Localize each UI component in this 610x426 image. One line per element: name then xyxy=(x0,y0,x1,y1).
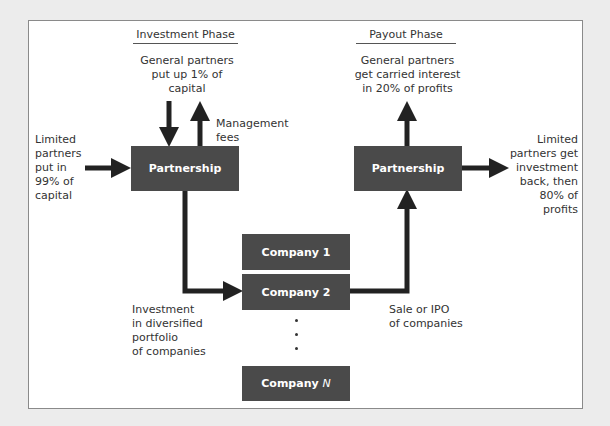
sale-ipo-arrow xyxy=(350,198,407,291)
ellipsis-dot xyxy=(295,347,298,350)
lp-payout-label: Limited partners get investment back, th… xyxy=(500,133,578,217)
investment-arrow xyxy=(185,191,234,291)
partnership-payout-box: Partnership xyxy=(354,146,462,191)
sale-ipo-label: Sale or IPO of companies xyxy=(389,303,463,331)
company-n-box: Company N xyxy=(242,366,350,401)
ellipsis-dot xyxy=(295,333,298,336)
company-1-box: Company 1 xyxy=(242,234,350,270)
company-2-box: Company 2 xyxy=(242,274,350,310)
partnership-investment-box: Partnership xyxy=(131,146,239,191)
payout-phase-heading: Payout Phase xyxy=(356,28,456,44)
ellipsis-dot xyxy=(295,319,298,322)
management-fees-label: Management fees xyxy=(216,117,288,145)
lp-put-in-label: Limited partners put in 99% of capital xyxy=(35,133,82,203)
gp-carried-interest-label: General partners get carried interest in… xyxy=(350,54,465,96)
investment-phase-heading: Investment Phase xyxy=(133,28,238,44)
investment-portfolio-label: Investment in diversified portfolio of c… xyxy=(132,303,206,359)
gp-put-up-label: General partners put up 1% of capital xyxy=(128,54,246,96)
